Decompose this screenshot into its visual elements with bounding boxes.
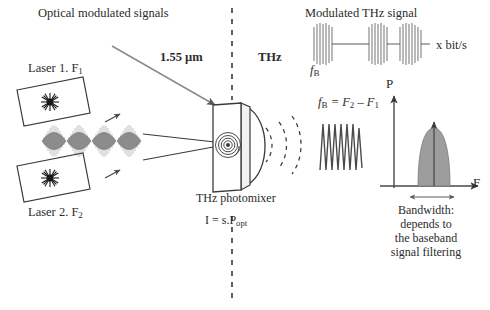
laser2-label: Laser 2. F2 [28,205,83,221]
laser2-label-text: Laser 2. F [28,205,78,219]
responsivity-equation-text: I = s.P [205,213,236,227]
thz-radiation-arcs [266,116,301,174]
bandwidth-caption-line4: signal filtering [366,245,486,259]
wavelength-label: 1.55 µm [160,50,203,65]
burst [400,23,421,65]
axis-label-f: F [473,175,480,190]
beat-frequency-equation: fB = F2 – F1 [318,95,379,111]
laser1-label-text: Laser 1. F [28,61,78,75]
photomixer-label: THz photomixer [196,191,276,205]
beat-eq-rest: = F [328,95,350,109]
diagram-vector-layer [0,0,490,310]
laser2-starburst [41,169,59,187]
responsivity-equation-sub: opt [236,218,247,228]
optical-beam-lines [143,134,224,160]
modulated-thz-signal-label: Modulated THz signal [305,6,417,21]
optical-beat-waveform [42,125,141,157]
axis-label-p: P [386,76,393,91]
burst [314,23,332,65]
optical-modulated-signals-label: Optical modulated signals [38,6,169,21]
laser1-starburst [41,93,59,111]
fb-burst-label: fB [310,63,320,79]
bandwidth-caption-line2: depends to [366,217,486,231]
burst [369,23,387,65]
thz-label: THz [258,50,282,65]
bandwidth-caption-line3: the baseband [366,231,486,245]
figure-canvas: Optical modulated signals Laser 1. F1 La… [0,0,490,310]
laser1-label-sub: 1 [78,66,83,76]
bandwidth-caption: Bandwidth: depends to the baseband signa… [366,203,486,260]
laser2-box [17,153,90,202]
bandwidth-caption-line1: Bandwidth: [366,203,486,217]
spectrum-dome [418,122,450,186]
laser1-label: Laser 1. F1 [28,61,83,77]
beat-eq-minus: – F [354,95,374,109]
fb-burst-label-sub: B [313,68,319,78]
responsivity-equation: I = s.Popt [205,213,247,228]
baseband-sine-wave [320,124,362,170]
beat-eq-sub1: 1 [374,100,379,110]
bitrate-label: x bit/s [436,38,467,53]
thz-photomixer-device [213,103,265,192]
laser2-label-sub: 2 [78,210,83,220]
modulated-thz-burst-train [314,23,430,65]
laser1-box [17,77,90,126]
